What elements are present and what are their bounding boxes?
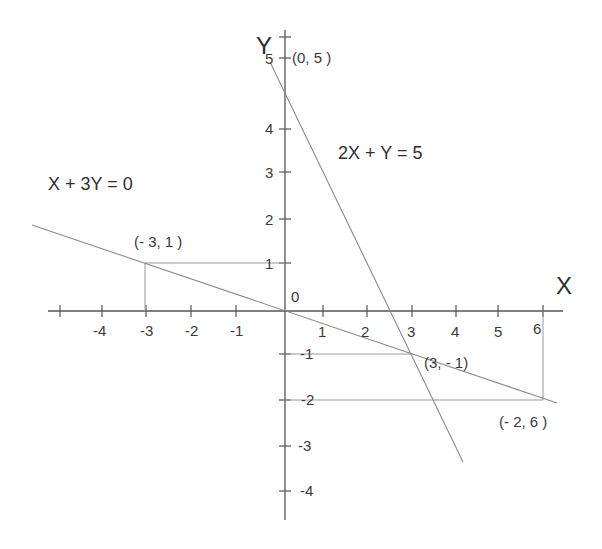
x-tick-label: 4 [451, 324, 459, 339]
y-tick-label: -3 [298, 438, 311, 453]
y-tick-label: -1 [300, 346, 313, 361]
equation-line2-label: 2X + Y = 5 [338, 144, 422, 162]
x-tick-label: -2 [185, 323, 198, 338]
y-tick-label: -4 [300, 483, 313, 498]
x-tick-label: 3 [407, 324, 415, 339]
y-tick-label: 1 [265, 256, 273, 271]
point-label-neg3-1: (- 3, 1 ) [134, 234, 182, 249]
y-tick-label: 3 [265, 165, 273, 180]
origin-label: 0 [291, 289, 299, 304]
y-tick-label: -2 [301, 392, 314, 407]
y-tick-label: 5 [265, 51, 273, 66]
line-2x-plus-y-eq-5 [270, 62, 463, 462]
x-axis-label: X [556, 274, 572, 298]
y-tick-label: 2 [265, 212, 273, 227]
equation-line1-label: X + 3Y = 0 [48, 175, 133, 193]
point-label-3-neg1: (3, - 1) [424, 355, 468, 370]
x-tick-label: 1 [318, 324, 326, 339]
y-tick-label: 4 [265, 121, 273, 136]
point-label-0-5: (0, 5 ) [292, 50, 331, 65]
x-tick-label: 2 [361, 324, 369, 339]
x-tick-label: -1 [230, 323, 243, 338]
x-tick-label: -3 [140, 323, 153, 338]
x-tick-label: -4 [93, 323, 106, 338]
coordinate-plane [0, 0, 602, 549]
point-label-neg2-6: (- 2, 6 ) [499, 414, 547, 429]
x-tick-label: 5 [494, 324, 502, 339]
x-tick-label: 6 [533, 321, 541, 336]
line-x-plus-3y-eq-0 [32, 225, 557, 403]
